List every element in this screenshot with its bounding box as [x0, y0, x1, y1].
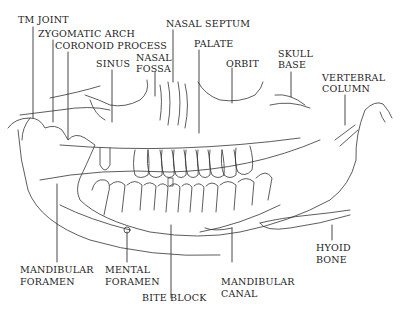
label-tm-joint: TM JOINT [18, 14, 69, 25]
label-vertebral-column-line1: VERTEBRAL [322, 72, 385, 83]
label-hyoid-bone-line1: HYOID [316, 242, 351, 253]
label-mental-foramen-line2: FORAMEN [105, 276, 160, 287]
label-zygomatic-arch: ZYGOMATIC ARCH [38, 28, 135, 39]
label-coronoid-process: CORONOID PROCESS [55, 40, 167, 51]
label-mental-foramen-line1: MENTAL [105, 264, 150, 275]
panoramic-anatomy-diagram: TM JOINT ZYGOMATIC ARCH CORONOID PROCESS… [0, 0, 400, 318]
label-nasal-fossa-line1: NASAL [136, 52, 172, 63]
label-nasal-fossa-line2: FOSSA [136, 63, 171, 74]
label-hyoid-bone-line2: BONE [316, 254, 347, 265]
label-orbit: ORBIT [226, 58, 259, 69]
label-nasal-septum: NASAL SEPTUM [166, 18, 250, 29]
label-mandibular-foramen-line2: FORAMEN [20, 276, 75, 287]
label-skull-base-line2: BASE [278, 59, 306, 70]
label-mandibular-canal-line2: CANAL [221, 288, 258, 299]
label-vertebral-column-line2: COLUMN [322, 83, 370, 94]
lower-teeth [92, 173, 272, 215]
label-sinus: SINUS [96, 58, 130, 69]
upper-teeth [100, 146, 253, 178]
label-skull-base-line1: SKULL [278, 48, 313, 59]
label-palate: PALATE [194, 38, 234, 49]
label-mandibular-canal-line1: MANDIBULAR [221, 276, 295, 287]
label-mandibular-foramen-line1: MANDIBULAR [20, 264, 94, 275]
label-bite-block: BITE BLOCK [142, 292, 206, 303]
